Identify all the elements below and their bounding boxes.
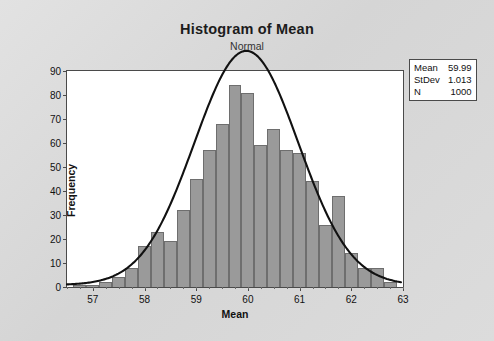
y-axis-tick-mark (63, 167, 67, 168)
x-axis-minor-tick (157, 287, 158, 289)
x-axis-minor-tick (209, 287, 210, 289)
y-axis-tick-mark (63, 215, 67, 216)
x-axis-minor-tick (170, 287, 171, 289)
legend-label-stdev: StDev (414, 74, 442, 86)
x-axis-tick-label: 62 (346, 294, 357, 305)
x-axis-minor-tick (287, 287, 288, 289)
y-axis-tick-mark (63, 95, 67, 96)
stats-legend: Mean 59.99 StDev 1.013 N 1000 (409, 59, 477, 101)
y-axis-tick-mark (63, 263, 67, 264)
y-axis-tick-label: 40 (50, 186, 61, 197)
legend-row: N 1000 (414, 86, 473, 98)
y-axis-tick-label: 60 (50, 138, 61, 149)
y-axis-tick-label: 10 (50, 258, 61, 269)
x-axis-minor-tick (196, 287, 197, 289)
legend-value-n: 1000 (442, 86, 473, 98)
legend-value-stdev: 1.013 (442, 74, 473, 86)
chart-canvas: Histogram of Mean Normal Frequency Mean … (0, 0, 494, 341)
x-axis-minor-tick (183, 287, 184, 289)
x-axis-minor-tick (145, 287, 146, 289)
y-axis-tick-label: 0 (55, 282, 61, 293)
legend-label-mean: Mean (414, 62, 442, 74)
y-axis-tick-mark (63, 191, 67, 192)
x-axis-minor-tick (106, 287, 107, 289)
y-axis-tick-label: 50 (50, 162, 61, 173)
x-axis-minor-tick (364, 287, 365, 289)
x-axis-tick-label: 60 (242, 294, 253, 305)
x-axis-minor-tick (119, 287, 120, 289)
legend-row: StDev 1.013 (414, 74, 473, 86)
x-axis-minor-tick (351, 287, 352, 289)
legend-row: Mean 59.99 (414, 62, 473, 74)
y-axis-tick-mark (63, 71, 67, 72)
x-axis-minor-tick (222, 287, 223, 289)
y-axis-tick-label: 20 (50, 234, 61, 245)
x-axis-minor-tick (403, 287, 404, 289)
x-axis-tick-label: 63 (397, 294, 408, 305)
x-axis-label: Mean (67, 308, 403, 320)
y-axis-tick-label: 30 (50, 210, 61, 221)
y-axis-tick-mark (63, 143, 67, 144)
x-axis-minor-tick (274, 287, 275, 289)
x-axis-minor-tick (261, 287, 262, 289)
chart-title: Histogram of Mean (0, 21, 494, 37)
x-axis-minor-tick (93, 287, 94, 289)
y-axis-tick-mark (63, 239, 67, 240)
x-axis-minor-tick (338, 287, 339, 289)
x-axis-minor-tick (67, 287, 68, 289)
x-axis-tick-label: 58 (139, 294, 150, 305)
x-axis-tick-label: 57 (87, 294, 98, 305)
x-axis-minor-tick (248, 287, 249, 289)
y-axis-tick-mark (63, 119, 67, 120)
x-axis-minor-tick (390, 287, 391, 289)
x-axis-tick-label: 59 (191, 294, 202, 305)
y-axis-tick-label: 90 (50, 66, 61, 77)
x-axis-tick-label: 61 (294, 294, 305, 305)
y-axis-tick-label: 70 (50, 114, 61, 125)
plot-area: Frequency Mean 0102030405060708090575859… (66, 70, 404, 288)
x-axis-minor-tick (300, 287, 301, 289)
legend-value-mean: 59.99 (442, 62, 473, 74)
x-axis-minor-tick (132, 287, 133, 289)
y-axis-tick-label: 80 (50, 90, 61, 101)
x-axis-minor-tick (377, 287, 378, 289)
legend-label-n: N (414, 86, 442, 98)
x-axis-minor-tick (325, 287, 326, 289)
normal-curve (67, 71, 403, 287)
x-axis-minor-tick (313, 287, 314, 289)
x-axis-minor-tick (235, 287, 236, 289)
x-axis-minor-tick (80, 287, 81, 289)
